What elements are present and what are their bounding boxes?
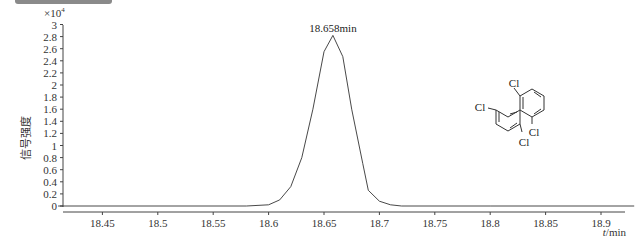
y-tick-label: 0.4	[43, 176, 57, 188]
cl-label: Cl	[475, 101, 485, 113]
y-tick-label: 0	[52, 200, 58, 212]
peak-annotation: 18.658min	[309, 22, 357, 34]
y-tick-label: 2.4	[43, 55, 57, 67]
y-tick-label: 0.6	[43, 164, 57, 176]
x-tick-label: 18.7	[370, 217, 390, 229]
x-axis-label: t/min	[603, 226, 627, 238]
y-tick-label: 1.4	[43, 115, 57, 127]
x-tick-label: 18.45	[90, 217, 115, 229]
y-tick-label: 2.2	[43, 67, 57, 79]
y-tick-label: 2	[52, 79, 58, 91]
y-multiplier: ×104	[44, 6, 65, 19]
y-tick-label: 2.8	[43, 31, 57, 43]
y-axis-label: 信号强度	[19, 116, 33, 160]
y-tick-label: 1	[52, 140, 58, 152]
x-tick-label: 18.5	[148, 217, 168, 229]
x-tick-label: 18.65	[312, 217, 337, 229]
y-ticks: 00.20.40.60.811.21.41.61.822.22.42.62.83	[43, 19, 63, 213]
x-tick-label: 18.55	[201, 217, 226, 229]
chromatogram-chart: ×104 信号强度 00.20.40.60.811.21.41.61.822.2…	[0, 0, 638, 245]
y-tick-label: 1.8	[43, 91, 57, 103]
y-tick-label: 1.2	[43, 127, 57, 139]
x-tick-label: 18.6	[259, 217, 279, 229]
y-tick-label: 2.6	[43, 43, 57, 55]
cl-label: Cl	[509, 77, 519, 89]
chromatogram-line	[58, 35, 634, 206]
x-ticks: 18.4518.518.5518.618.6518.718.7518.818.8…	[90, 212, 611, 229]
x-tick-label: 18.75	[422, 217, 447, 229]
x-tick-label: 18.8	[481, 217, 501, 229]
cl-label: Cl	[519, 136, 529, 148]
x-tick-label: 18.85	[533, 217, 558, 229]
y-tick-label: 1.6	[43, 103, 57, 115]
y-tick-label: 3	[52, 19, 58, 31]
cl-label: Cl	[529, 126, 539, 138]
y-tick-label: 0.8	[43, 152, 57, 164]
y-tick-label: 0.2	[43, 188, 57, 200]
